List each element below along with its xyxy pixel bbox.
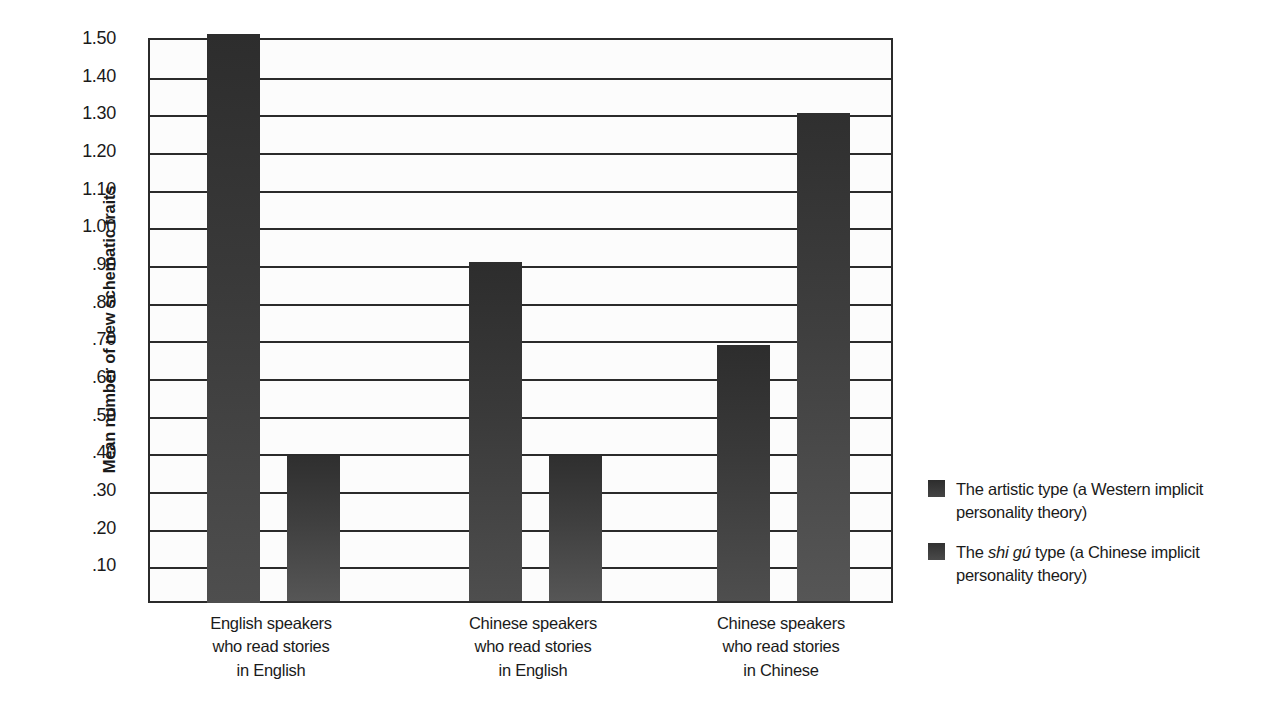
- x-axis-group-label: Chinese speakerswho read storiesin Engli…: [403, 612, 663, 682]
- bar: [469, 262, 522, 601]
- x-axis-group-label: Chinese speakerswho read storiesin Chine…: [651, 612, 911, 682]
- gridline: [150, 228, 891, 230]
- x-axis-group-label: English speakerswho read storiesin Engli…: [141, 612, 401, 682]
- y-axis-tick-label: .20: [16, 517, 116, 538]
- plot-area: [148, 38, 893, 603]
- x-axis-group-label-line: in English: [141, 659, 401, 682]
- y-axis-tick-label: .10: [16, 555, 116, 576]
- legend-entry: The artistic type (a Western implicitper…: [928, 478, 1258, 525]
- gridline: [150, 153, 891, 155]
- legend-label: The artistic type (a Western implicitper…: [956, 478, 1203, 525]
- y-axis-tick-label: .70: [16, 329, 116, 350]
- x-axis-group-label-line: Chinese speakers: [651, 612, 911, 635]
- bar: [797, 113, 850, 601]
- legend-swatch: [928, 480, 945, 497]
- gridline: [150, 115, 891, 117]
- y-axis-tick-label: .60: [16, 367, 116, 388]
- legend-label-line: personality theory): [956, 501, 1203, 524]
- legend-label-emphasis: shi gú: [988, 543, 1031, 561]
- bar-chart-figure: Mean number of new schematic traits 1.50…: [0, 0, 1273, 719]
- legend-label-line: personality theory): [956, 564, 1199, 587]
- y-axis-tick-label: 1.20: [16, 141, 116, 162]
- legend-entry: The shi gú type (a Chinese implicitperso…: [928, 541, 1258, 588]
- x-axis-group-label-line: who read stories: [651, 635, 911, 658]
- x-axis-group-label-line: who read stories: [141, 635, 401, 658]
- gridline: [150, 191, 891, 193]
- y-axis-tick-label: 1.50: [16, 28, 116, 49]
- bar: [287, 456, 340, 601]
- legend-label-line: The artistic type (a Western implicit: [956, 478, 1203, 501]
- legend-label-line: The shi gú type (a Chinese implicit: [956, 541, 1199, 564]
- legend-swatch: [928, 543, 945, 560]
- gridline: [150, 78, 891, 80]
- y-axis-tick-label: 1.40: [16, 65, 116, 86]
- y-axis-tick-label: .90: [16, 254, 116, 275]
- y-axis-tick-label: .80: [16, 291, 116, 312]
- y-axis-tick-label: .30: [16, 480, 116, 501]
- x-axis-group-label-line: English speakers: [141, 612, 401, 635]
- y-axis-tick-label: 1.10: [16, 178, 116, 199]
- y-axis-tick-label: 1.30: [16, 103, 116, 124]
- legend-label: The shi gú type (a Chinese implicitperso…: [956, 541, 1199, 588]
- x-axis-group-label-line: in Chinese: [651, 659, 911, 682]
- y-axis-tick-label: 1.00: [16, 216, 116, 237]
- bar: [549, 456, 602, 601]
- y-axis-tick-label: .40: [16, 442, 116, 463]
- bar: [207, 34, 260, 603]
- legend: The artistic type (a Western implicitper…: [928, 478, 1258, 604]
- x-axis-group-label-line: Chinese speakers: [403, 612, 663, 635]
- x-axis-group-label-line: in English: [403, 659, 663, 682]
- y-axis-tick-label: .50: [16, 404, 116, 425]
- x-axis-group-label-line: who read stories: [403, 635, 663, 658]
- bar: [717, 345, 770, 601]
